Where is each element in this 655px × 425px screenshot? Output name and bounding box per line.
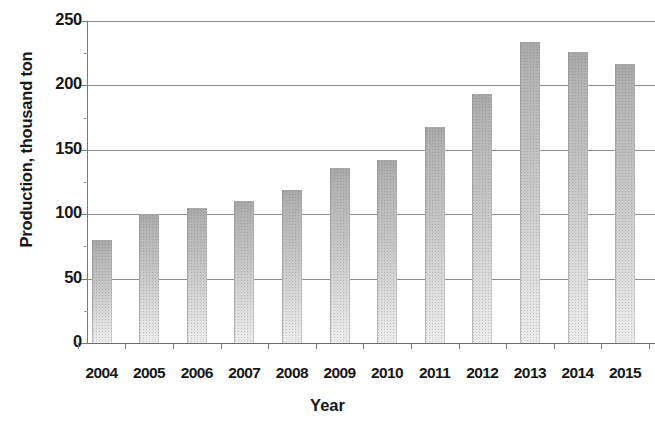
y-minor-tick-75 bbox=[84, 246, 88, 247]
x-tick-10 bbox=[601, 343, 602, 349]
y-tick-200 bbox=[81, 85, 88, 86]
bar-2013 bbox=[520, 42, 540, 343]
x-tick-origin bbox=[78, 343, 79, 349]
bar-2014 bbox=[568, 52, 588, 343]
bar-2008 bbox=[282, 190, 302, 343]
bar-2007 bbox=[234, 201, 254, 343]
plot-area bbox=[87, 21, 655, 343]
bar-2009 bbox=[330, 168, 350, 343]
bar-2005 bbox=[139, 214, 159, 343]
x-tick-11 bbox=[649, 343, 650, 349]
bar-chart: Production, thousand ton 050100150200250… bbox=[0, 0, 655, 425]
y-tick-label-50: 50 bbox=[36, 268, 82, 287]
gridline-250 bbox=[87, 21, 655, 22]
y-minor-tick-175 bbox=[84, 118, 88, 119]
x-tick-label-2006: 2006 bbox=[173, 364, 221, 382]
x-tick-4 bbox=[316, 343, 317, 349]
y-tick-50 bbox=[81, 279, 88, 280]
x-tick-label-2010: 2010 bbox=[363, 364, 411, 382]
y-tick-label-200: 200 bbox=[36, 74, 82, 93]
bar-2012 bbox=[472, 94, 492, 343]
x-tick-label-2004: 2004 bbox=[78, 364, 126, 382]
x-axis-tick-labels: 2004200520062007200820092010201120122013… bbox=[87, 364, 655, 386]
y-tick-label-100: 100 bbox=[36, 203, 82, 222]
bar-2006 bbox=[187, 208, 207, 343]
y-tick-100 bbox=[81, 214, 88, 215]
bar-2004 bbox=[92, 240, 112, 343]
x-axis-title: Year bbox=[0, 396, 655, 415]
y-tick-150 bbox=[81, 150, 88, 151]
y-tick-0 bbox=[81, 343, 88, 344]
bar-2011 bbox=[425, 127, 445, 343]
y-tick-label-0: 0 bbox=[36, 332, 82, 351]
x-tick-7 bbox=[459, 343, 460, 349]
x-tick-1 bbox=[173, 343, 174, 349]
x-tick-0 bbox=[125, 343, 126, 349]
bar-2015 bbox=[615, 64, 635, 343]
x-tick-label-2012: 2012 bbox=[458, 364, 506, 382]
x-tick-6 bbox=[411, 343, 412, 349]
x-tick-label-2005: 2005 bbox=[125, 364, 173, 382]
x-tick-9 bbox=[554, 343, 555, 349]
y-minor-tick-125 bbox=[84, 182, 88, 183]
x-tick-label-2014: 2014 bbox=[554, 364, 602, 382]
y-tick-label-150: 150 bbox=[36, 139, 82, 158]
x-tick-label-2015: 2015 bbox=[601, 364, 649, 382]
y-minor-tick-25 bbox=[84, 311, 88, 312]
x-tick-label-2008: 2008 bbox=[268, 364, 316, 382]
x-tick-label-2011: 2011 bbox=[411, 364, 459, 382]
x-tick-label-2007: 2007 bbox=[220, 364, 268, 382]
y-tick-label-250: 250 bbox=[36, 10, 82, 29]
y-axis-tick-labels: 050100150200250 bbox=[32, 0, 82, 425]
y-tick-250 bbox=[81, 21, 88, 22]
x-tick-5 bbox=[363, 343, 364, 349]
x-tick-8 bbox=[506, 343, 507, 349]
x-tick-label-2009: 2009 bbox=[316, 364, 364, 382]
bar-2010 bbox=[377, 160, 397, 343]
x-tick-3 bbox=[268, 343, 269, 349]
y-minor-tick-225 bbox=[84, 53, 88, 54]
x-tick-2 bbox=[221, 343, 222, 349]
x-tick-label-2013: 2013 bbox=[506, 364, 554, 382]
